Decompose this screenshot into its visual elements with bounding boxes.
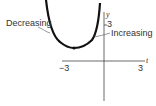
minimum-point <box>72 46 75 49</box>
curve <box>46 0 100 48</box>
increasing-leader <box>94 33 110 37</box>
increasing-label: Increasing <box>111 29 153 38</box>
x-tick-neg3: −3 <box>59 64 69 73</box>
decreasing-label: Decreasing <box>6 19 52 28</box>
x-axis-label: t <box>146 57 148 65</box>
y-axis-label: y <box>106 11 110 19</box>
x-tick-3: 3 <box>138 64 143 73</box>
y-tick-3: 3 <box>107 20 112 29</box>
chart-canvas <box>0 0 156 106</box>
